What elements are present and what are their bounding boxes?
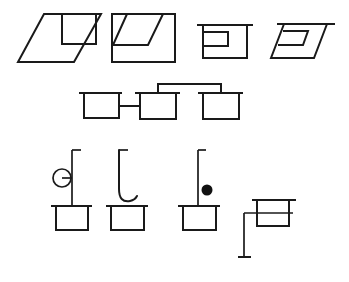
figure-svg <box>0 0 349 282</box>
drawing-canvas: Line drawing of eight geometric box figu… <box>0 0 349 282</box>
figure-10-dot-terminal-icon <box>202 185 213 196</box>
